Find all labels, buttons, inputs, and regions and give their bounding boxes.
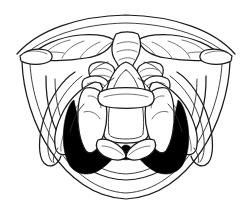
figure-caption [0, 208, 251, 224]
laryngoscopic-view-figure [0, 0, 251, 224]
larynx-line-drawing [0, 0, 251, 224]
interarytenoid-region [98, 88, 154, 109]
